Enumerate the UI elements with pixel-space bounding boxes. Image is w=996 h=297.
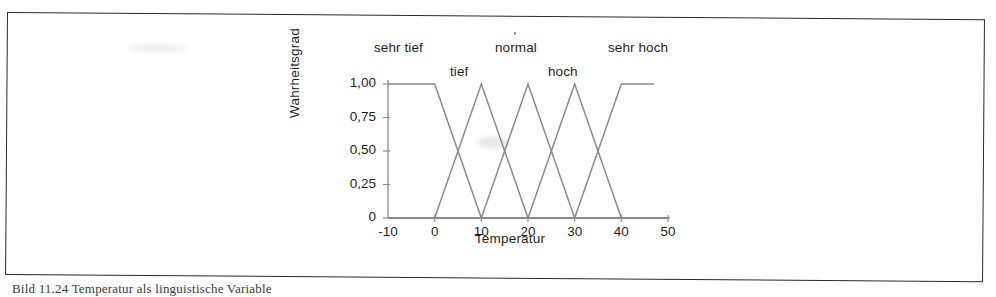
x-tick-label: 10 (461, 224, 501, 239)
membership-curve-normal (388, 84, 668, 218)
x-tick-label: 40 (601, 224, 641, 239)
y-axis-title: Wahrheitsgrad (287, 28, 302, 118)
y-tick-label: 0,50 (336, 142, 376, 157)
y-tick-label: 1,00 (336, 75, 376, 90)
membership-curve-hoch (388, 84, 668, 218)
x-tick-label: 30 (555, 224, 595, 239)
y-tick-label: 0,75 (336, 109, 376, 124)
y-tick-label: 0,25 (336, 176, 376, 191)
x-tick-label: -10 (368, 224, 408, 239)
y-tick-label: 0 (336, 209, 376, 224)
x-tick-label: 20 (508, 224, 548, 239)
fuzzy-membership-figure: sehr tief tief normal hoch sehr hoch Wah… (290, 22, 710, 254)
membership-curve-tief (388, 84, 668, 218)
figure-caption: Bild 11.24 Temperatur als linguistische … (12, 281, 272, 297)
membership-curve-sehr-tief (388, 84, 668, 218)
scan-smudge (128, 44, 188, 52)
x-tick-label: 0 (415, 224, 455, 239)
x-tick-label: 50 (648, 224, 688, 239)
plot-area: Wahrheitsgrad Temperatur 00,250,500,751,… (290, 22, 710, 254)
